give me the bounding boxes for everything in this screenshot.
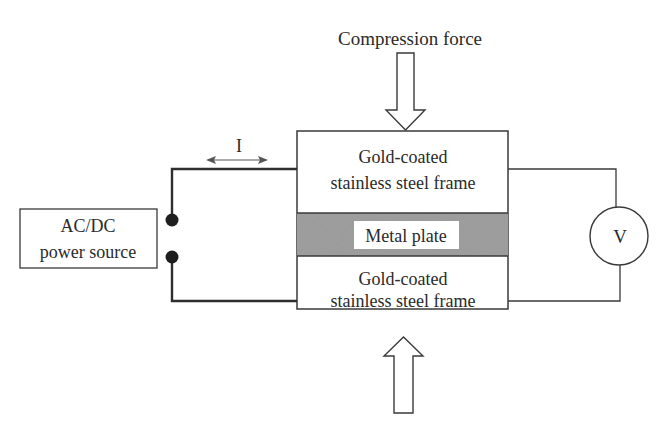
supply-wire-bottom (172, 257, 297, 301)
current-label: I (236, 136, 242, 156)
bottom-frame-label-line1: Gold-coated (359, 269, 448, 289)
terminal-bottom (166, 251, 179, 264)
supply-wire-top (172, 169, 297, 220)
top-frame-label-line2: stainless steel frame (331, 173, 476, 193)
metal-plate-label: Metal plate (365, 226, 446, 246)
current-direction-arrow-icon (206, 156, 268, 164)
voltmeter-wire-bottom (508, 265, 620, 301)
voltmeter-label: V (613, 226, 627, 247)
power-source-label-line2: power source (40, 242, 136, 262)
top-frame-label-line1: Gold-coated (359, 147, 448, 167)
compression-force-label: Compression force (338, 28, 482, 49)
terminal-top (166, 214, 179, 227)
bottom-frame-label-line2: stainless steel frame (331, 291, 476, 311)
power-source-label-line1: AC/DC (60, 216, 115, 236)
compression-arrow-down-icon (386, 53, 425, 130)
voltmeter-wire-top (508, 169, 616, 207)
diagram-canvas: Compression force Metal plate Gold-coate… (0, 0, 668, 441)
compression-arrow-up-icon (384, 337, 423, 413)
